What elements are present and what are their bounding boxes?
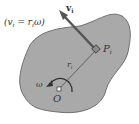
velocity-label: vi [65, 3, 74, 14]
equation-label: (vi = riω) [4, 17, 45, 28]
origin-label: O [53, 93, 61, 104]
omega-label: ω [36, 80, 43, 89]
rigid-body-diagram: (vi = riω) vi Pi ri ω O [0, 0, 139, 124]
origin-marker [57, 87, 61, 91]
